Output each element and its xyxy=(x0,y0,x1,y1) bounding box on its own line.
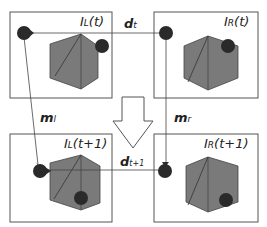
feature-dot-cube-lt1 xyxy=(74,191,88,205)
label-il-t1: IL(t+1) xyxy=(64,136,107,151)
label-ir-t1: IR(t+1) xyxy=(204,136,249,151)
stereo-tracking-diagram: IL(t) IR(t) IL(t+1) IR(t+1) dt dt+1 ml m… xyxy=(0,0,267,227)
time-step-arrow-icon xyxy=(113,97,153,148)
label-ir-t: IR(t) xyxy=(224,14,249,29)
label-d-t: dt xyxy=(124,16,137,31)
label-m-r: mr xyxy=(174,110,193,125)
label-m-l: ml xyxy=(40,110,57,125)
motion-line-left xyxy=(24,37,38,165)
cube-left-t xyxy=(50,34,98,89)
point-right-t xyxy=(159,26,173,40)
cube-left-t1 xyxy=(50,155,100,210)
feature-dot-cube-lt xyxy=(95,39,109,53)
point-left-t xyxy=(17,26,31,40)
label-il-t: IL(t) xyxy=(80,14,104,29)
label-d-t1: dt+1 xyxy=(120,154,144,169)
point-left-t1 xyxy=(33,164,47,178)
feature-dot-cube-rt xyxy=(221,39,235,53)
feature-dot-cube-rt1 xyxy=(219,193,233,207)
